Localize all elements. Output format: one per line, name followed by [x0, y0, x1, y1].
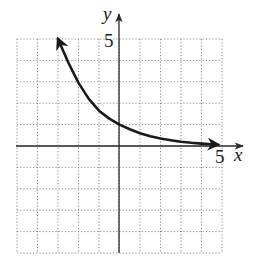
x-tick-label-5: 5: [215, 146, 225, 167]
y-tick-label-5: 5: [104, 30, 114, 51]
exponential-curve: [58, 39, 218, 145]
y-axis-label: y: [101, 3, 112, 24]
x-axis-label: x: [233, 144, 243, 165]
graph-canvas: y 5 5 x: [0, 0, 255, 266]
